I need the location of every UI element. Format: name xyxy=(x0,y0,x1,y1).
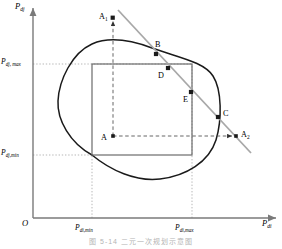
label-point-d: D xyxy=(158,72,164,80)
point-e[interactable] xyxy=(189,90,193,94)
x-axis-label: Pdi xyxy=(262,219,272,228)
figure-container: Pdj Pdi O Pdj, max Pdj,min Pdi,min Pdi,m… xyxy=(0,0,282,249)
label-point-e: E xyxy=(183,96,188,104)
label-point-c: C xyxy=(223,110,228,118)
origin-label: O xyxy=(22,219,28,228)
label-point-b: B xyxy=(155,41,160,49)
point-a[interactable] xyxy=(111,134,115,138)
x-tick-label-max: Pdi,max xyxy=(175,224,194,232)
guide-lines xyxy=(33,64,192,218)
constraint-line xyxy=(118,10,251,153)
label-point-a1: A1 xyxy=(99,13,108,21)
point-a1[interactable] xyxy=(111,16,115,20)
label-point-a2: A2 xyxy=(241,131,250,139)
y-tick-label-max: Pdj, max xyxy=(1,58,21,66)
plot-canvas xyxy=(0,0,282,249)
point-a2[interactable] xyxy=(234,134,238,138)
x-tick-label-min: Pdi,min xyxy=(75,224,93,232)
y-tick-label-min: Pdj,min xyxy=(1,149,19,157)
y-axis-label: Pdj xyxy=(15,2,25,11)
capability-envelope-curve xyxy=(58,40,220,180)
point-d[interactable] xyxy=(166,66,170,70)
feasible-rectangle xyxy=(92,64,192,155)
point-c[interactable] xyxy=(216,115,220,119)
point-b[interactable] xyxy=(154,52,158,56)
label-point-a: A xyxy=(101,134,107,142)
figure-caption: 图 5-14 二元一次规划示意图 xyxy=(0,236,282,246)
